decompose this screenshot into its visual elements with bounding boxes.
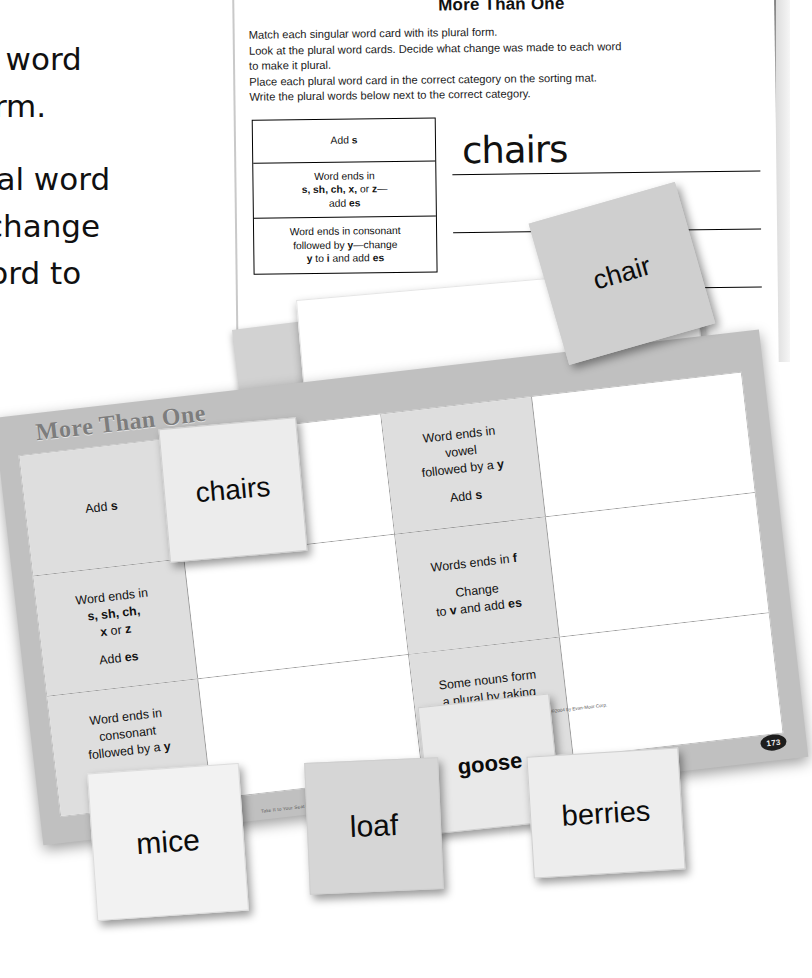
- overlay-spacer: [0, 130, 224, 156]
- sorting-mat-page-badge: 173: [760, 733, 788, 752]
- worksheet-category-cell-2: Word ends ins, sh, ch, x, or z—add es: [253, 161, 436, 219]
- mat-drop-zone-irregular[interactable]: [559, 613, 782, 756]
- overlay-line-5: word to: [0, 250, 224, 297]
- overlay-line-3: ural word: [0, 156, 224, 203]
- word-card-berries[interactable]: berries: [526, 747, 685, 878]
- mat-key-f-to-v-text: Words ends in f Changeto v and add es: [430, 550, 523, 622]
- worksheet-category-table: Add s Word ends ins, sh, ch, x, or z—add…: [252, 117, 438, 274]
- mat-drop-zone-vowel-y[interactable]: [532, 373, 755, 516]
- worksheet-category-cell-3: Word ends in consonantfollowed by y—chan…: [254, 216, 437, 273]
- word-card-chairs[interactable]: chairs: [158, 417, 307, 563]
- word-card-loaf[interactable]: loaf: [304, 757, 444, 895]
- mat-key-add-s-text: Add s: [84, 497, 118, 518]
- screenshot-stage: More Than One Match each singular word c…: [0, 0, 812, 978]
- mat-key-add-es-text: Word ends ins, sh, ch,x or z Add es: [75, 584, 156, 671]
- overlay-caption: ar word form. ural word t change word to: [0, 32, 232, 307]
- mat-key-vowel-y-text: Word ends invowelfollowed by a y Add s: [417, 421, 508, 509]
- mat-key-add-es: Word ends ins, sh, ch,x or z Add es: [33, 559, 198, 696]
- book-page-edge: [776, 0, 790, 362]
- overlay-line-4: t change: [0, 203, 224, 250]
- worksheet-left-rule: [232, 0, 239, 360]
- overlay-line-1: ar word: [0, 36, 224, 83]
- word-card-mice[interactable]: mice: [87, 763, 249, 921]
- worksheet-title: More Than One: [228, 0, 774, 18]
- mat-key-f-to-v: Words ends in f Changeto v and add es: [395, 517, 560, 654]
- mat-key-add-s: Add s: [20, 439, 185, 576]
- overlay-line-2: form.: [0, 83, 224, 130]
- worksheet-category-cell-1: Add s: [253, 118, 436, 163]
- worksheet-instructions: Match each singular word card with its p…: [249, 21, 770, 105]
- mat-key-vowel-y: Word ends invowelfollowed by a y Add s: [381, 397, 546, 534]
- handwritten-answer: chairs: [462, 128, 568, 172]
- mat-drop-zone-f-to-v[interactable]: [546, 493, 769, 636]
